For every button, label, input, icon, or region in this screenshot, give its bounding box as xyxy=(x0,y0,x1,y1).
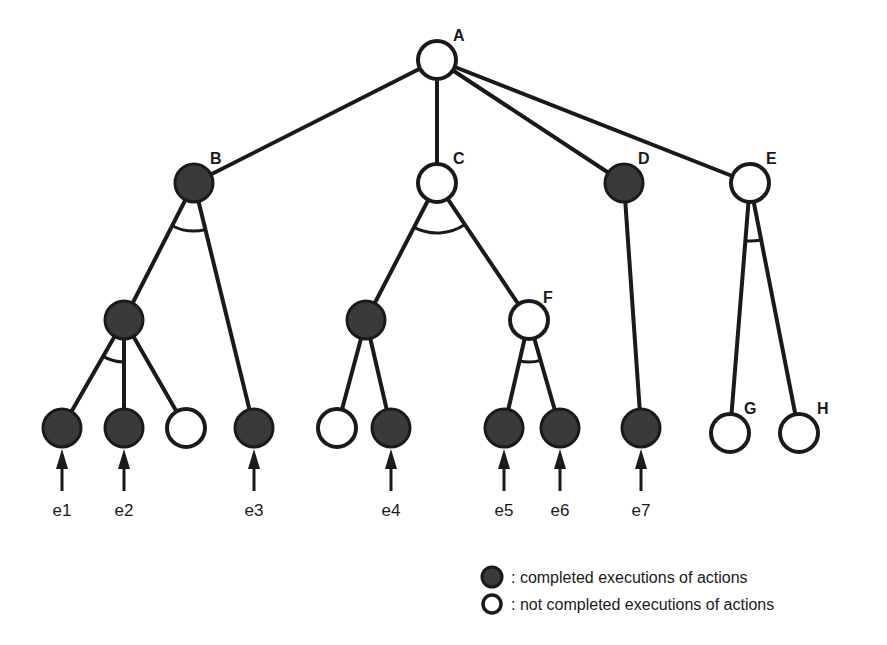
arrow-up-icon xyxy=(385,449,397,469)
node-l2 xyxy=(105,409,143,447)
event-e6: e6 xyxy=(551,449,570,520)
and-arc-C xyxy=(414,225,465,233)
event-e3: e3 xyxy=(245,449,264,520)
arrow-up-icon xyxy=(118,449,130,469)
event-label: e7 xyxy=(632,501,651,520)
arrow-up-icon xyxy=(56,449,68,469)
event-e2: e2 xyxy=(115,449,134,520)
node-label: F xyxy=(543,289,553,306)
node-l1 xyxy=(43,409,81,447)
node-e: E xyxy=(731,150,777,202)
node-c1 xyxy=(347,301,385,339)
node-label: E xyxy=(766,150,777,167)
and-arc-B xyxy=(172,226,205,231)
open-circle-icon xyxy=(483,595,501,613)
filled-circle-icon xyxy=(482,567,502,587)
node-b: B xyxy=(175,150,222,202)
filled-circle-icon xyxy=(105,301,143,339)
node-label: A xyxy=(453,27,465,44)
event-label: e5 xyxy=(495,501,514,520)
filled-circle-icon xyxy=(175,164,213,202)
edge-E-H xyxy=(750,183,799,433)
node-label: D xyxy=(638,150,650,167)
open-circle-icon xyxy=(510,301,548,339)
filled-circle-icon xyxy=(622,409,660,447)
node-label: B xyxy=(210,150,222,167)
node-l9 xyxy=(622,409,660,447)
and-arc-F xyxy=(520,360,541,362)
open-circle-icon xyxy=(418,164,456,202)
node-l4 xyxy=(235,409,273,447)
event-e5: e5 xyxy=(495,449,514,520)
node-label: G xyxy=(744,400,756,417)
legend-label-not-completed: : not completed executions of actions xyxy=(511,596,774,613)
edges-layer xyxy=(62,60,799,433)
open-circle-icon xyxy=(418,41,456,79)
node-l6 xyxy=(372,409,410,447)
event-e4: e4 xyxy=(382,449,401,520)
event-label: e3 xyxy=(245,501,264,520)
open-circle-icon xyxy=(318,409,356,447)
node-c: C xyxy=(418,150,465,202)
node-l3 xyxy=(167,409,205,447)
arrow-up-icon xyxy=(498,449,510,469)
event-label: e1 xyxy=(53,501,72,520)
arrow-up-icon xyxy=(554,449,566,469)
event-label: e6 xyxy=(551,501,570,520)
edge-B-B1 xyxy=(124,183,194,320)
open-circle-icon xyxy=(780,414,818,452)
filled-circle-icon xyxy=(235,409,273,447)
open-circle-icon xyxy=(711,414,749,452)
node-l5 xyxy=(318,409,356,447)
filled-circle-icon xyxy=(605,164,643,202)
node-b1 xyxy=(105,301,143,339)
arrow-up-icon xyxy=(248,449,260,469)
node-l7 xyxy=(485,409,523,447)
filled-circle-icon xyxy=(372,409,410,447)
and-arcs-layer xyxy=(103,225,761,362)
event-e7: e7 xyxy=(632,449,651,520)
open-circle-icon xyxy=(167,409,205,447)
and-arc-E xyxy=(745,240,761,241)
arrow-up-icon xyxy=(635,449,647,469)
filled-circle-icon xyxy=(347,301,385,339)
edge-C-F xyxy=(437,183,529,320)
node-f: F xyxy=(510,289,553,339)
edge-C-C1 xyxy=(366,183,437,320)
events-layer: e1e2e3e4e5e6e7 xyxy=(53,449,651,520)
node-label: H xyxy=(817,400,829,417)
and-arc-B1 xyxy=(103,356,124,362)
edge-B-L4 xyxy=(194,183,254,428)
edge-E-G xyxy=(730,183,750,433)
and-or-tree-diagram: ABCDEFGH e1e2e3e4e5e6e7 : completed exec… xyxy=(0,0,887,645)
legend-label-completed: : completed executions of actions xyxy=(511,569,748,586)
open-circle-icon xyxy=(731,164,769,202)
node-label: C xyxy=(453,150,465,167)
filled-circle-icon xyxy=(105,409,143,447)
legend-item-not-completed: : not completed executions of actions xyxy=(483,595,774,613)
node-d: D xyxy=(605,150,650,202)
edge-A-B xyxy=(194,60,437,183)
node-l8 xyxy=(541,409,579,447)
filled-circle-icon xyxy=(43,409,81,447)
node-a: A xyxy=(418,27,465,79)
edge-D-L9 xyxy=(624,183,641,428)
filled-circle-icon xyxy=(541,409,579,447)
legend-item-completed: : completed executions of actions xyxy=(482,567,748,587)
filled-circle-icon xyxy=(485,409,523,447)
event-label: e4 xyxy=(382,501,401,520)
event-label: e2 xyxy=(115,501,134,520)
node-h: H xyxy=(780,400,829,452)
legend: : completed executions of actions : not … xyxy=(482,567,774,613)
event-e1: e1 xyxy=(53,449,72,520)
